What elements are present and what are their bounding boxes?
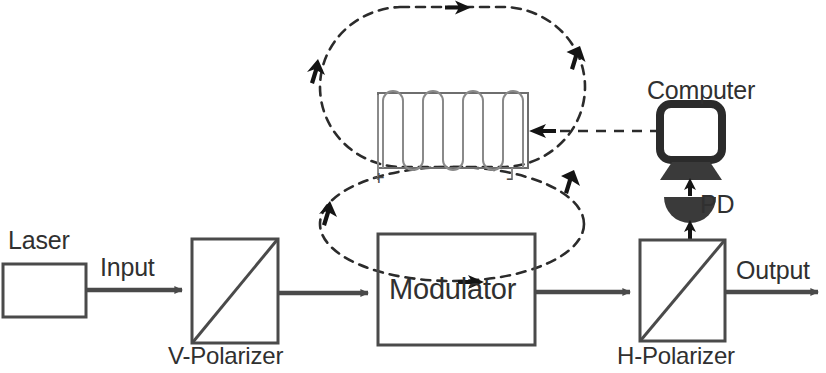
laser-label: Laser xyxy=(8,228,70,253)
upper-field-loop xyxy=(320,7,585,167)
computer-label: Computer xyxy=(647,78,755,103)
coil-negative-terminal-label: - xyxy=(506,168,512,188)
field-arrow-upper-left xyxy=(307,59,325,84)
hpol-to-pd-arrowhead xyxy=(684,220,696,240)
output-label: Output xyxy=(736,258,810,283)
computer-to-coil-arrowhead xyxy=(529,124,556,138)
laser-box xyxy=(3,264,86,317)
figure-canvas: Laser Input V-Polarizer Modulator H-Pola… xyxy=(0,0,826,373)
h-polarizer-label: H-Polarizer xyxy=(617,344,735,368)
v-polarizer-label: V-Polarizer xyxy=(168,344,283,368)
photodiode-label: PD xyxy=(700,192,734,217)
field-arrow-upper-top xyxy=(445,1,471,15)
solenoid-core xyxy=(378,93,528,168)
v-polarizer-box xyxy=(192,239,278,343)
field-arrow-lower-right xyxy=(561,170,580,194)
pd-to-computer-arrowhead xyxy=(684,178,696,196)
modulator-label: Modulator xyxy=(389,275,516,304)
input-label: Input xyxy=(100,255,155,280)
schematic-svg xyxy=(0,0,826,373)
computer-monitor xyxy=(660,104,722,180)
h-polarizer-box xyxy=(640,240,725,341)
lower-field-loop xyxy=(320,167,584,281)
coil-positive-terminal-label: + xyxy=(373,168,384,188)
